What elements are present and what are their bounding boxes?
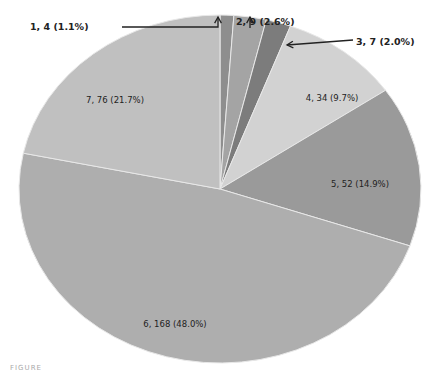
slice-label-3: 3, 7 (2.0%)	[356, 36, 414, 47]
slice-label-5: 5, 52 (14.9%)	[331, 179, 389, 189]
slice-label-6: 6, 168 (48.0%)	[143, 319, 206, 329]
slice-label-7: 7, 76 (21.7%)	[86, 95, 144, 105]
figure-caption: FIGURE	[10, 364, 435, 374]
pie-slices	[19, 15, 421, 363]
slice-label-2: 2, 9 (2.6%)	[236, 16, 294, 27]
slice-label-1: 1, 4 (1.1%)	[30, 21, 88, 32]
pie-chart: 1, 4 (1.1%)2, 9 (2.6%)3, 7 (2.0%)4, 34 (…	[0, 0, 435, 374]
slice-label-4: 4, 34 (9.7%)	[306, 93, 359, 103]
